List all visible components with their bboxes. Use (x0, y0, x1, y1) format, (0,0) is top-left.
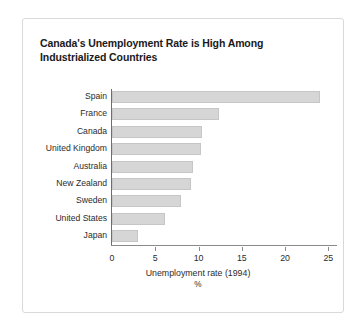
x-tick-label-0: 0 (97, 253, 127, 263)
x-tick-label-15: 15 (227, 253, 257, 263)
y-tick-label-united-kingdom: United Kingdom (23, 143, 107, 153)
y-tick-label-new-zealand: New Zealand (23, 178, 107, 188)
y-tick-label-spain: Spain (23, 91, 107, 101)
y-axis-category-labels: SpainFranceCanadaUnited KingdomAustralia… (23, 88, 107, 245)
x-axis-line (111, 245, 337, 246)
y-tick-label-sweden: Sweden (23, 195, 107, 205)
bar-series (112, 89, 337, 246)
y-tick-label-japan: Japan (23, 230, 107, 240)
bar-france (112, 108, 219, 120)
bar-japan (112, 230, 138, 242)
x-tick-mark-15 (242, 247, 243, 251)
x-axis-unit-label: % (83, 279, 313, 290)
y-tick-label-france: France (23, 108, 107, 118)
bar-sweden (112, 195, 181, 207)
bar-canada (112, 126, 202, 138)
x-tick-label-25: 25 (313, 253, 343, 263)
bar-australia (112, 161, 193, 173)
x-tick-label-10: 10 (184, 253, 214, 263)
x-tick-mark-20 (285, 247, 286, 251)
x-axis-title: Unemployment rate (1994) (83, 267, 313, 279)
x-tick-label-20: 20 (270, 253, 300, 263)
y-tick-label-australia: Australia (23, 161, 107, 171)
bar-spain (112, 91, 320, 103)
y-tick-label-canada: Canada (23, 126, 107, 136)
y-tick-label-united-states: United States (23, 213, 107, 223)
bar-united-kingdom (112, 143, 201, 155)
figure-frame: Canada's Unemployment Rate is High Among… (22, 18, 344, 313)
x-tick-mark-25 (328, 247, 329, 251)
x-tick-mark-10 (199, 247, 200, 251)
plot-area: SpainFranceCanadaUnited KingdomAustralia… (23, 19, 345, 314)
x-tick-mark-5 (155, 247, 156, 251)
x-tick-label-5: 5 (140, 253, 170, 263)
bar-new-zealand (112, 178, 191, 190)
bar-united-states (112, 213, 165, 225)
